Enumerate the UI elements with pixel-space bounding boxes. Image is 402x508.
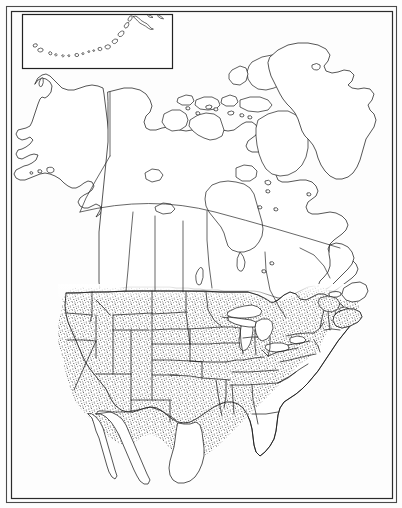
north-america-map (0, 0, 402, 508)
lake-ontario (290, 336, 306, 344)
distribution-map-figure (0, 0, 402, 508)
anticosti-island (329, 292, 341, 298)
